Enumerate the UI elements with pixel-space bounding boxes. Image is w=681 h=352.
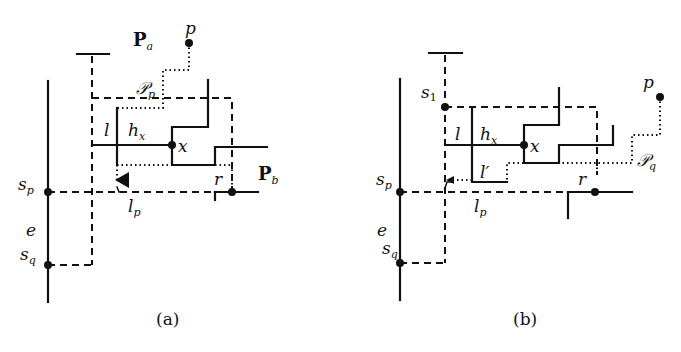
label-x: x [178, 136, 188, 156]
label-e: e [26, 220, 36, 240]
label-sp: sp [376, 169, 392, 192]
point-x [168, 141, 176, 149]
point-sq [44, 261, 52, 269]
arrow-corner [117, 187, 126, 192]
panel-a: Pa p 𝒫p l hx x Pb r sp lp e sq (a) [18, 18, 279, 329]
point-sp [44, 188, 52, 196]
point-s1 [441, 103, 449, 111]
label-path-p: 𝒫p [136, 78, 155, 101]
diagram-canvas: Pa p 𝒫p l hx x Pb r sp lp e sq (a) [0, 0, 681, 352]
label-sp: sp [18, 174, 34, 197]
label-l: l [104, 120, 109, 140]
caption-b: (b) [513, 309, 537, 329]
label-s1: s1 [421, 82, 437, 104]
label-l-prime: l′ [480, 162, 489, 182]
label-l: l [455, 124, 460, 144]
point-sp [396, 188, 404, 196]
arrow-corner [445, 182, 451, 188]
label-r: r [578, 169, 587, 189]
label-hx: hx [128, 120, 146, 143]
label-e: e [377, 220, 387, 240]
label-pa: Pa [133, 29, 153, 53]
label-sq: sq [20, 244, 36, 267]
panel-b: s1 p 𝒫q l hx x l′ r sp lp e sq (b) [376, 53, 664, 329]
point-p [656, 93, 664, 101]
point-r [591, 188, 599, 196]
caption-a: (a) [156, 309, 179, 329]
label-p: p [643, 72, 654, 92]
dashed-rect [445, 107, 597, 175]
label-pb: Pb [258, 163, 279, 187]
point-x [520, 141, 528, 149]
label-r: r [214, 169, 223, 189]
label-x: x [530, 136, 540, 156]
label-p: p [185, 18, 196, 38]
label-hx: hx [480, 124, 498, 147]
label-lp: lp [474, 196, 486, 219]
point-p [185, 39, 193, 47]
point-r [228, 188, 236, 196]
label-sq: sq [382, 238, 398, 261]
label-lp: lp [128, 196, 140, 219]
label-path-q: 𝒫q [637, 150, 656, 173]
